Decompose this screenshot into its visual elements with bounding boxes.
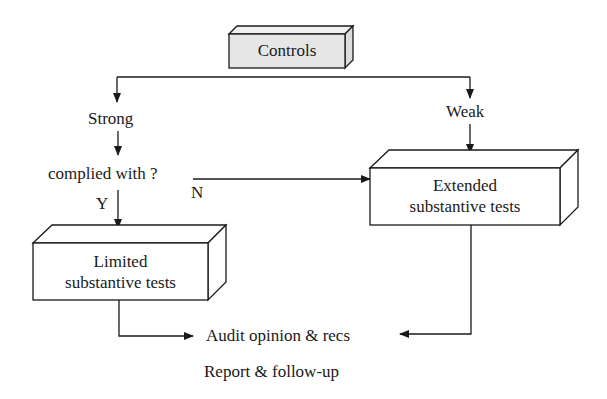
no-label: N (191, 183, 203, 203)
report-follow-up-label: Report & follow-up (204, 362, 339, 382)
controls-label: Controls (229, 40, 345, 61)
extended-tests-label: Extended substantive tests (370, 175, 560, 217)
extended-line2: substantive tests (370, 196, 560, 217)
limited-line1: Limited (33, 251, 208, 272)
controls-split-connector (117, 77, 470, 102)
extended-line1: Extended (370, 175, 560, 196)
weak-label: Weak (446, 102, 484, 122)
strong-label: Strong (88, 109, 133, 129)
complied-with-label: complied with ? (48, 164, 158, 184)
audit-opinion-label: Audit opinion & recs (206, 326, 350, 346)
limited-to-audit-arrow (119, 300, 193, 336)
limited-tests-label: Limited substantive tests (33, 251, 208, 293)
limited-line2: substantive tests (33, 272, 208, 293)
extended-to-audit-arrow (400, 225, 471, 334)
yes-label: Y (96, 194, 108, 214)
